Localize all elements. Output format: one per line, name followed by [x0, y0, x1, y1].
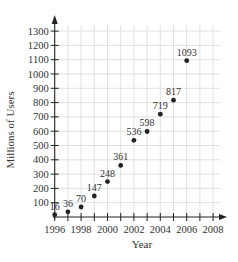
- scatter-chart: 1002003004005006007008009001000110012001…: [0, 0, 238, 262]
- x-axis-ticks: 1996199820002002200420062008: [44, 213, 223, 235]
- data-point-label: 248: [100, 168, 115, 179]
- data-point: [105, 179, 110, 184]
- data-point-label: 598: [140, 117, 155, 128]
- data-point: [92, 194, 97, 199]
- y-axis-arrow-icon: [52, 15, 58, 24]
- x-tick-label: 1998: [71, 224, 92, 235]
- y-tick-label: 900: [33, 83, 49, 94]
- y-tick-label: 200: [33, 183, 49, 194]
- x-tick-label: 1996: [44, 224, 65, 235]
- y-tick-label: 500: [33, 140, 49, 151]
- data-point-label: 147: [87, 182, 102, 193]
- y-tick-label: 400: [33, 154, 49, 165]
- y-axis-title: Millions of Users: [4, 92, 16, 169]
- data-points: 1636701472483615365987198171093: [50, 47, 197, 217]
- data-point-label: 817: [166, 86, 181, 97]
- data-point: [184, 58, 189, 63]
- data-point: [52, 212, 57, 217]
- data-point: [118, 163, 123, 168]
- data-point-label: 1093: [177, 47, 197, 58]
- x-tick-label: 2004: [150, 224, 172, 235]
- data-point-label: 70: [76, 193, 86, 204]
- data-point: [79, 205, 84, 210]
- y-tick-label: 1300: [28, 26, 49, 37]
- y-tick-label: 1100: [28, 54, 49, 65]
- y-tick-label: 600: [33, 126, 49, 137]
- y-tick-label: 300: [33, 169, 49, 180]
- x-tick-label: 2000: [97, 224, 118, 235]
- data-point: [66, 209, 71, 214]
- data-point-label: 16: [50, 201, 60, 212]
- x-tick-label: 2006: [176, 224, 197, 235]
- x-tick-label: 2008: [203, 224, 224, 235]
- y-tick-label: 1000: [28, 69, 49, 80]
- data-point-label: 719: [153, 100, 168, 111]
- y-tick-label: 100: [33, 197, 49, 208]
- y-axis-ticks: 1002003004005006007008009001000110012001…: [28, 26, 59, 209]
- x-axis-title: Year: [132, 238, 153, 250]
- data-point-label: 36: [63, 198, 73, 209]
- y-tick-label: 1200: [28, 40, 49, 51]
- data-point: [171, 98, 176, 103]
- y-tick-label: 800: [33, 97, 49, 108]
- x-tick-label: 2002: [123, 224, 144, 235]
- x-axis-arrow-icon: [219, 214, 227, 220]
- y-tick-label: 700: [33, 111, 49, 122]
- data-point: [132, 138, 137, 143]
- data-point: [145, 129, 150, 134]
- data-point-label: 361: [113, 151, 128, 162]
- data-point: [158, 112, 163, 117]
